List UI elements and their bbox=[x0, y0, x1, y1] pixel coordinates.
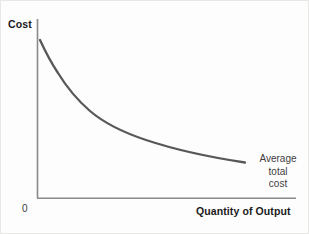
y-axis-label: Cost bbox=[8, 18, 32, 30]
curve-annotation-line-2: total bbox=[250, 166, 306, 179]
economics-cost-curve-figure: Cost Quantity of Output 0 Average total … bbox=[0, 0, 309, 234]
plot-area bbox=[0, 0, 309, 234]
curve-annotation-line-3: cost bbox=[250, 178, 306, 191]
average-total-cost-curve bbox=[40, 40, 245, 163]
curve-annotation-line-1: Average bbox=[250, 153, 306, 166]
origin-tick-label: 0 bbox=[22, 203, 28, 214]
x-axis-label: Quantity of Output bbox=[196, 205, 291, 217]
curve-annotation-average-total-cost: Average total cost bbox=[250, 153, 306, 191]
